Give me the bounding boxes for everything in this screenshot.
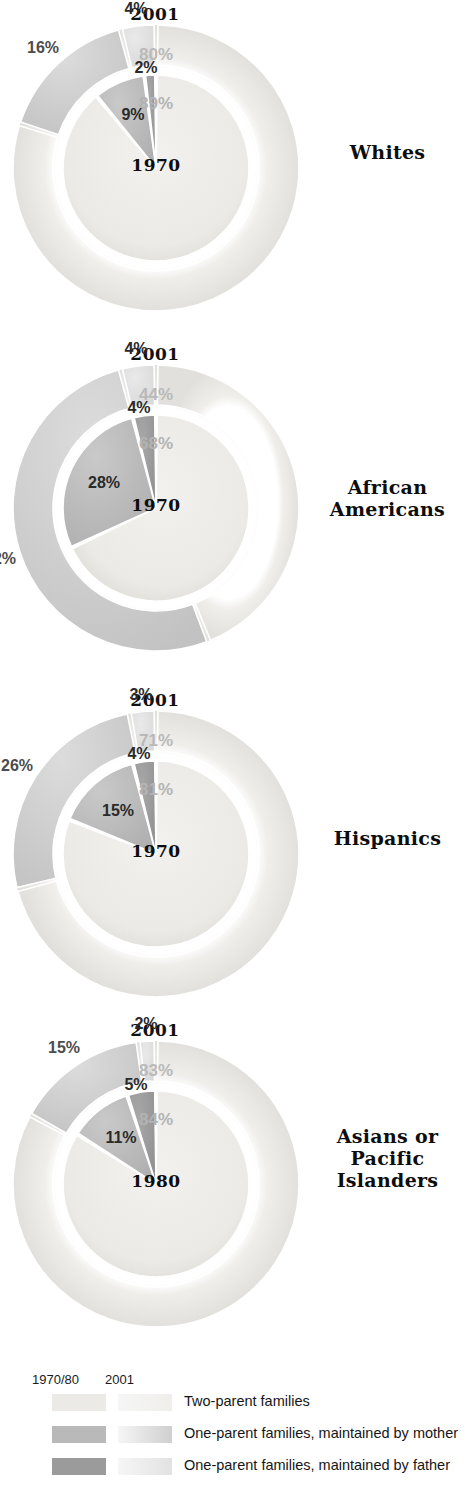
legend-swatch-inner <box>52 1394 106 1411</box>
outer-mother-label: 15% <box>48 1039 80 1057</box>
inner-two-parent-label: 84% <box>139 1110 173 1130</box>
inner-mother-label: 15% <box>102 802 134 820</box>
donut-chart: 44%68%197028%4%52%4% <box>10 362 302 654</box>
group-label-line: Asians or <box>308 1125 467 1147</box>
chart-title-year: 2001 <box>0 4 310 24</box>
legend-label: One-parent families, maintained by mothe… <box>184 1425 458 1441</box>
chart-3: 2001Hispanics71%81%197015%4%26%3% <box>0 686 467 1026</box>
center-year-label: 1980 <box>131 1171 180 1191</box>
inner-mother-label: 11% <box>105 1129 136 1147</box>
center-year-label: 1970 <box>131 495 180 515</box>
group-label: Hispanics <box>308 827 467 849</box>
inner-mother-label: 28% <box>88 474 120 492</box>
legend-label: One-parent families, maintained by fathe… <box>184 1457 450 1473</box>
outer-mother-label: 52% <box>0 550 16 568</box>
outer-father-label: 4% <box>124 340 147 358</box>
outer-father-label: 3% <box>129 686 152 704</box>
inner-father-label: 4% <box>127 399 150 417</box>
chart-1: 2001Whites80%89%19709%2%16%4% <box>0 0 467 340</box>
legend-header-inner: 1970/80 <box>32 1372 79 1387</box>
legend-swatch-inner <box>52 1426 106 1443</box>
donut-chart: 80%89%19709%2%16%4% <box>10 22 302 314</box>
legend-swatch-inner <box>52 1458 106 1475</box>
inner-two-parent-label: 81% <box>139 780 173 800</box>
center-year-label: 1970 <box>131 841 180 861</box>
group-label: Whites <box>308 141 467 163</box>
chart-title-year: 2001 <box>0 344 310 364</box>
chart-4: 2001Asians orPacificIslanders83%84%19801… <box>0 1016 467 1346</box>
group-label-line: African <box>308 476 467 498</box>
inner-father-label: 5% <box>124 1076 147 1094</box>
group-label: Asians orPacificIslanders <box>308 1125 467 1191</box>
group-label: AfricanAmericans <box>308 476 467 520</box>
inner-two-parent-label: 68% <box>139 434 173 454</box>
chart-2: 2001AfricanAmericans44%68%197028%4%52%4% <box>0 340 467 680</box>
inner-father-label: 4% <box>127 745 150 763</box>
group-label-line: Hispanics <box>308 827 467 849</box>
outer-father-label: 2% <box>134 1015 157 1033</box>
outer-mother-label: 26% <box>1 757 33 775</box>
group-label-line: Americans <box>308 498 467 520</box>
inner-mother-label: 9% <box>121 106 144 124</box>
outer-father-label: 4% <box>124 0 147 18</box>
donut-chart: 71%81%197015%4%26%3% <box>10 708 302 1000</box>
group-label-line: Whites <box>308 141 467 163</box>
center-year-label: 1970 <box>131 155 180 175</box>
legend-label: Two-parent families <box>184 1393 310 1409</box>
legend-swatch-outer <box>118 1394 172 1411</box>
legend-swatch-outer <box>118 1426 172 1443</box>
outer-mother-label: 16% <box>27 39 59 57</box>
group-label-line: Pacific <box>308 1147 467 1169</box>
donut-chart: 83%84%198011%5%15%2% <box>10 1038 302 1330</box>
inner-father-label: 2% <box>134 59 157 77</box>
legend-header-outer: 2001 <box>105 1372 134 1387</box>
legend-swatch-outer <box>118 1458 172 1475</box>
group-label-line: Islanders <box>308 1169 467 1191</box>
chart-title-year: 2001 <box>0 690 310 710</box>
